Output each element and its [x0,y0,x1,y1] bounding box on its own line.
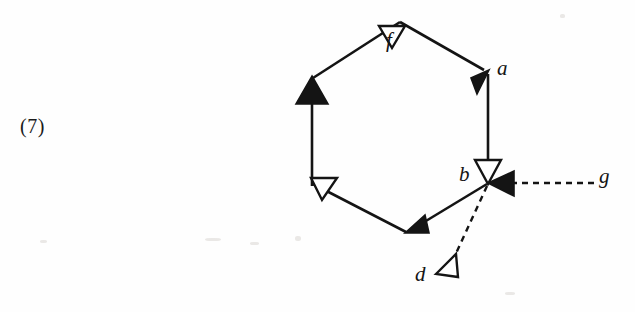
dashed-edges [452,183,594,262]
node-label-a: a [497,58,508,79]
node-label-g: g [599,166,610,187]
arrowhead-hollow-lowerleft [311,178,337,200]
arrowhead-hollow-f [379,26,405,48]
graph-diagram [0,0,635,312]
node-label-f: f [386,30,392,51]
figure-page: (7) [0,0,635,312]
hexagon-edges [312,22,488,232]
arrowhead-solid-a [471,70,489,94]
node-label-b: b [459,164,470,185]
node-label-d: d [415,264,426,285]
edge-b-to-d [452,186,487,262]
arrowhead-hollow-d [436,254,458,277]
arrowhead-solid-upperleft [296,76,328,104]
edge-f-to-a [400,22,484,70]
arrowhead-solid-bottom [405,215,429,233]
